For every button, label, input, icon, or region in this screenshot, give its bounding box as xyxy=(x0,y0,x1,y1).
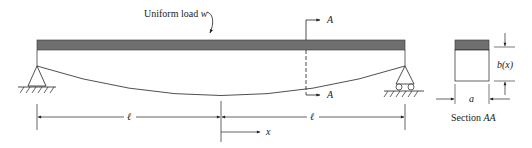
span-right-label: ℓ xyxy=(310,111,314,122)
deflection-curve xyxy=(37,66,405,96)
cross-section xyxy=(455,40,489,81)
section-label-bottom: A xyxy=(326,89,334,100)
section-caption: Section AA xyxy=(451,112,497,123)
x-axis-label: x xyxy=(265,126,271,137)
width-label: a xyxy=(469,93,474,104)
load-label: Uniform load w xyxy=(144,8,208,19)
section-label-top: A xyxy=(326,14,334,25)
load-arrow-icon xyxy=(207,12,213,33)
span-left-label: ℓ xyxy=(127,111,131,122)
beam-diagram: Uniform load w A A ℓ ℓ x xyxy=(0,0,532,148)
section-cut-marker xyxy=(306,20,320,95)
beam xyxy=(37,40,405,50)
depth-label: b(x) xyxy=(497,59,514,71)
